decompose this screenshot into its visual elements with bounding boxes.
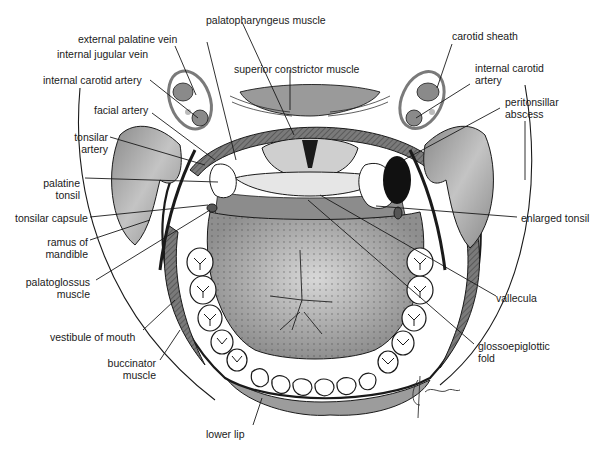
label-internal-carotid-artery-left: internal carotid artery [43,74,142,86]
label-glossoepiglottic-fold: glossoepiglottic fold [478,340,550,364]
label-enlarged-tonsil: enlarged tonsil [521,212,589,224]
label-tonsilar-capsule: tonsilar capsule [15,212,88,224]
label-palatoglossus-muscle: palatoglossus muscle [22,276,90,300]
label-tonsilar-artery-line2: artery [81,143,108,155]
label-buccinator-muscle: buccinator muscle [100,357,156,381]
label-carotid-sheath: carotid sheath [452,30,518,42]
label-lower-lip: lower lip [206,428,245,440]
label-palatine-tonsil: palatine tonsil [38,177,80,201]
label-ramus-of-mandible: ramus of mandible [36,236,88,260]
label-palatoglossus-line1: palatoglossus [26,276,90,288]
label-external-palatine-vein: external palatine vein [78,33,177,45]
label-ramus-line2: mandible [45,248,88,260]
label-glossoepiglottic-line1: glossoepiglottic [478,340,550,352]
label-tonsilar-artery-line1: tonsilar [74,131,108,143]
label-tonsilar-artery: tonsilar artery [68,131,108,155]
label-vestibule-of-mouth: vestibule of mouth [50,331,135,343]
label-superior-constrictor-muscle: superior constrictor muscle [234,63,359,75]
tonsilar-vessel-right [394,207,402,219]
palatine-tonsil-left [210,164,237,198]
label-internal-carotid-artery-right: internal carotid artery [475,62,544,86]
label-peritonsillar-line1: peritonsillar [505,96,559,108]
label-palatopharyngeus-muscle: palatopharyngeus muscle [206,14,326,26]
label-peritonsillar-abscess: peritonsillar abscess [505,96,559,120]
label-vallecula: vallecula [496,292,537,304]
label-palatine-tonsil-line2: tonsil [55,189,80,201]
label-internal-jugular-vein: internal jugular vein [57,48,148,60]
label-ramus-line1: ramus of [47,236,88,248]
artist-signature [413,376,460,418]
label-peritonsillar-line2: abscess [505,108,544,120]
label-internal-carotid-line2: artery [475,74,502,86]
carotid-sheath-left [161,65,219,135]
peritonsillar-abscess [383,156,411,204]
label-facial-artery: facial artery [94,104,148,116]
label-buccinator-line1: buccinator [108,357,156,369]
label-internal-carotid-line1: internal carotid [475,62,544,74]
label-glossoepiglottic-line2: fold [478,352,495,364]
tongue-texture [207,212,424,359]
label-palatoglossus-line2: muscle [57,288,90,300]
label-buccinator-line2: muscle [123,369,156,381]
label-palatine-tonsil-line1: palatine [43,177,80,189]
carotid-sheath-right [391,64,453,135]
